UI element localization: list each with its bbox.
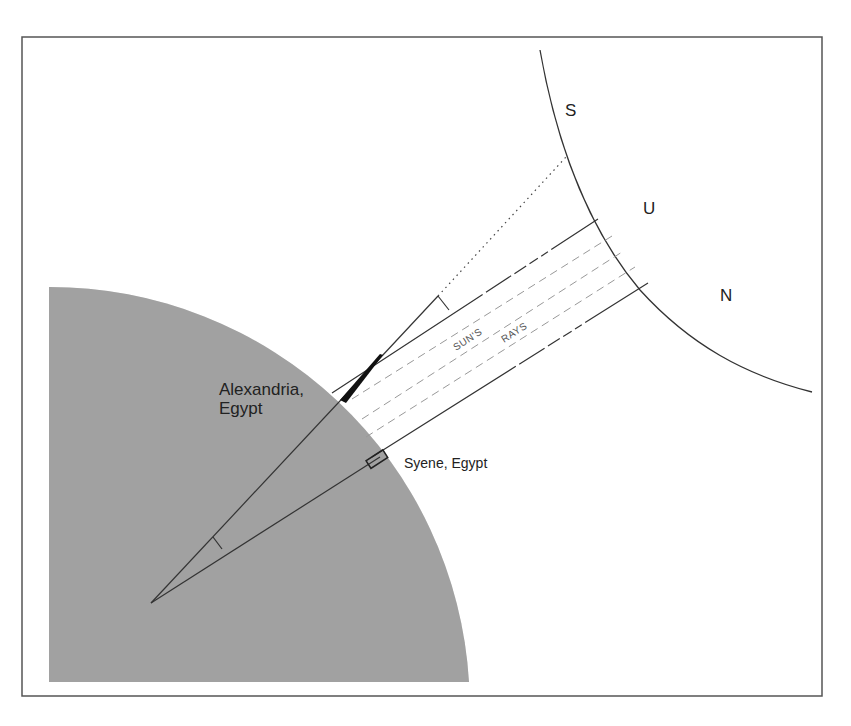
syene-label: Syene, Egypt (404, 455, 487, 471)
eratosthenes-diagram: S U N Alexandria, Egypt Syene, Egypt SUN… (0, 0, 851, 726)
alexandria-label-line2: Egypt (219, 399, 263, 418)
sun-letter-s: S (565, 101, 576, 120)
alexandria-label-line1: Alexandria, (219, 380, 304, 399)
sun-letter-u: U (643, 199, 655, 218)
sun-letter-n: N (720, 286, 732, 305)
